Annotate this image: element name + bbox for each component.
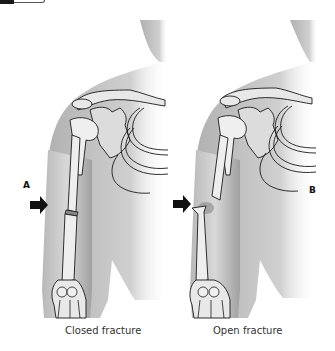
arrow-icon [173,195,191,213]
panel-b-arm [190,20,318,318]
panel-a-label: A [23,180,30,190]
panel-a-arm [42,20,168,318]
panel-b-label: B [309,185,316,195]
fracture-illustration [0,0,335,351]
panel-b-caption: Open fracture [213,325,282,336]
panel-a-caption: Closed fracture [65,325,141,336]
